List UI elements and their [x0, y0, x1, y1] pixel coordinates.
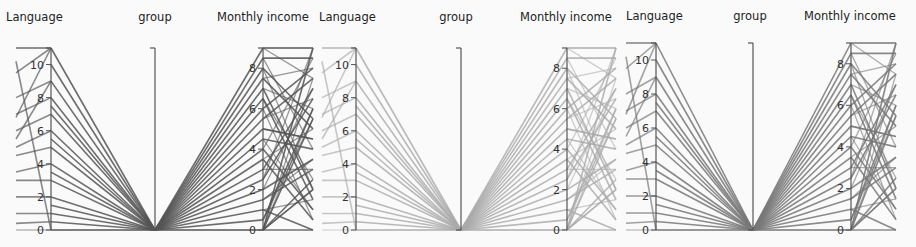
- tick-label-language: 8: [642, 88, 649, 101]
- polylines: [322, 48, 616, 230]
- tick-label-monthly-income: 4: [553, 143, 560, 156]
- tick-label-monthly-income: 4: [837, 141, 844, 154]
- tick-label-language: 8: [37, 92, 44, 105]
- tick-label-language: 8: [342, 92, 349, 105]
- axis-title-monthly-income: Monthly income: [520, 10, 612, 24]
- polylines: [16, 48, 313, 230]
- tick-label-language: 10: [30, 59, 44, 72]
- axis-title-language: Language: [626, 9, 683, 23]
- tick-label-language: 6: [342, 125, 349, 138]
- tick-label-language: 0: [342, 224, 349, 237]
- tick-label-language: 0: [37, 224, 44, 237]
- tick-label-language: 6: [37, 125, 44, 138]
- tick-label-monthly-income: 0: [553, 224, 560, 237]
- tick-label-monthly-income: 8: [249, 62, 256, 75]
- tick-label-monthly-income: 4: [249, 143, 256, 156]
- tick-label-language: 2: [642, 190, 649, 203]
- tick-label-language: 2: [37, 191, 44, 204]
- tick-label-language: 0: [642, 224, 649, 237]
- tick-label-language: 4: [37, 158, 44, 171]
- axis-title-language: Language: [319, 10, 376, 24]
- axis-title-language: Language: [6, 10, 63, 24]
- tick-label-language: 2: [342, 191, 349, 204]
- parallel-plot-svg: 024681002468 Language group Monthly inco…: [0, 0, 316, 247]
- tick-label-language: 4: [642, 156, 649, 169]
- tick-label-monthly-income: 8: [553, 62, 560, 75]
- axis-title-group: group: [138, 10, 171, 24]
- tick-label-monthly-income: 6: [553, 103, 560, 116]
- tick-label-monthly-income: 6: [837, 99, 844, 112]
- parallel-plot-middle: 024681002468 Language group Monthly inco…: [316, 0, 622, 247]
- tick-label-language: 10: [635, 54, 649, 67]
- tick-label-monthly-income: 2: [837, 182, 844, 195]
- tick-label-language: 4: [342, 158, 349, 171]
- tick-label-language: 10: [335, 59, 349, 72]
- axis-title-monthly-income: Monthly income: [804, 9, 896, 23]
- axis-title-group: group: [733, 9, 766, 23]
- parallel-plot-right: 024681002468 Language group Monthly inco…: [622, 0, 916, 247]
- tick-label-monthly-income: 8: [837, 58, 844, 71]
- parallel-plot-left: 024681002468 Language group Monthly inco…: [0, 0, 316, 247]
- axis-title-group: group: [439, 10, 472, 24]
- tick-label-monthly-income: 0: [837, 224, 844, 237]
- parallel-plot-svg: 024681002468 Language group Monthly inco…: [316, 0, 622, 247]
- tick-label-monthly-income: 6: [249, 103, 256, 116]
- parallel-plot-svg: 024681002468 Language group Monthly inco…: [622, 0, 916, 247]
- tick-label-monthly-income: 2: [249, 184, 256, 197]
- tick-label-monthly-income: 0: [249, 224, 256, 237]
- axis-title-monthly-income: Monthly income: [217, 10, 309, 24]
- polylines: [626, 43, 896, 230]
- tick-label-monthly-income: 2: [553, 184, 560, 197]
- tick-label-language: 6: [642, 122, 649, 135]
